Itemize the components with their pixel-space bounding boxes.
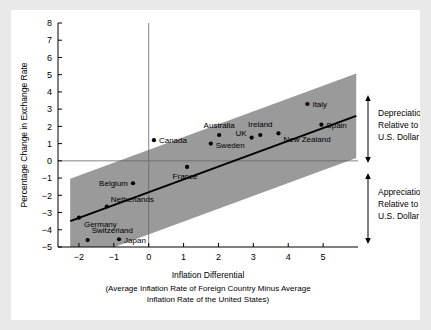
y-tick-label: 7 (47, 35, 52, 45)
data-point (217, 133, 221, 137)
y-axis: −5−4−3−2−1012345678 (42, 18, 62, 252)
data-point-label: Australia (204, 121, 236, 130)
y-tick-label: 5 (47, 70, 52, 80)
data-point (258, 133, 262, 137)
depreciation-line1: Depreciation (378, 108, 420, 118)
y-axis-title: Percentage Change in Exchange Rate (19, 62, 29, 207)
data-point-label: Ireland (248, 120, 272, 129)
appreciation-line1: Appreciation (378, 187, 420, 197)
data-point-label: Japan (124, 236, 146, 245)
data-point (319, 123, 323, 127)
data-point-label: Netherlands (111, 195, 154, 204)
y-tick-label: 1 (47, 139, 52, 149)
y-tick-label: 8 (47, 18, 52, 28)
y-tick-label: 2 (47, 122, 52, 132)
x-tick-label: −1 (109, 252, 119, 262)
data-point-label: Spain (326, 121, 346, 130)
x-tick-label: 5 (321, 252, 326, 262)
y-tick-label: −2 (42, 191, 52, 201)
scatter-chart: −5−4−3−2−1012345678 −2−1012345 GermanySw… (11, 10, 420, 320)
data-point (209, 142, 213, 146)
x-tick-label: 2 (216, 252, 221, 262)
appreciation-line3: U.S. Dollar (378, 211, 419, 221)
y-tick-label: 3 (47, 104, 52, 114)
data-point (131, 181, 135, 185)
y-tick-label: −1 (42, 173, 52, 183)
data-point (305, 102, 309, 106)
data-point-label: Italy (312, 100, 327, 109)
data-point (250, 135, 254, 139)
y-tick-label: 4 (47, 87, 52, 97)
data-point-label: New Zealand (283, 135, 330, 144)
x-tick-label: 4 (286, 252, 291, 262)
data-point-label: France (173, 172, 198, 181)
data-point-label: Belgium (99, 179, 128, 188)
data-point (276, 131, 280, 135)
depreciation-line3: U.S. Dollar (378, 132, 419, 142)
depreciation-annotation: Depreciation Relative to U.S. Dollar (365, 95, 420, 163)
figure-card: −5−4−3−2−1012345678 −2−1012345 GermanySw… (11, 10, 420, 320)
data-point (86, 238, 90, 242)
data-point-label: Sweden (216, 141, 245, 150)
y-tick-label: −4 (42, 225, 52, 235)
y-tick-label: 0 (47, 156, 52, 166)
data-point-label: Switzerland (92, 226, 133, 235)
data-point (117, 237, 121, 241)
x-tick-label: 3 (251, 252, 256, 262)
data-point (105, 204, 109, 208)
data-point (185, 165, 189, 169)
appreciation-line2: Relative to (378, 199, 418, 209)
x-tick-label: 1 (181, 252, 186, 262)
y-tick-label: 6 (47, 53, 52, 63)
depreciation-line2: Relative to (378, 120, 418, 130)
y-tick-label: −3 (42, 208, 52, 218)
x-tick-label: 0 (146, 252, 151, 262)
appreciation-annotation: Appreciation Relative to U.S. Dollar (365, 173, 420, 244)
y-tick-label: −5 (42, 242, 52, 252)
x-axis-title: Inflation Differential (172, 270, 245, 280)
data-point (152, 138, 156, 142)
x-tick-label: −2 (74, 252, 84, 262)
data-point (77, 216, 81, 220)
data-point-label: Canada (159, 136, 188, 145)
x-axis-caption-line1: (Average Inflation Rate of Foreign Count… (105, 284, 311, 293)
data-point-label: UK (235, 129, 247, 138)
x-axis-caption-line2: Inflation Rate of the United States) (147, 295, 270, 304)
